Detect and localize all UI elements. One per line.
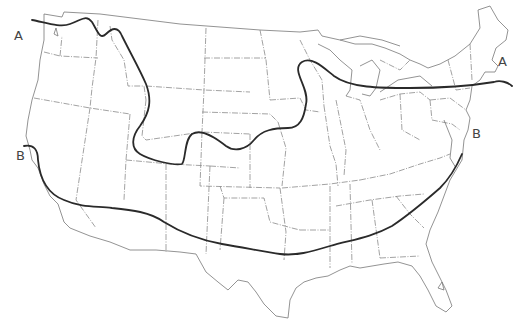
label-b-west: B (16, 148, 25, 163)
label-b-east: B (472, 126, 481, 141)
label-a-west: A (14, 28, 23, 43)
us-outline (26, 6, 508, 318)
line-a (32, 18, 512, 164)
us-map (0, 0, 519, 333)
line-b (24, 146, 462, 255)
label-a-east: A (498, 54, 507, 69)
